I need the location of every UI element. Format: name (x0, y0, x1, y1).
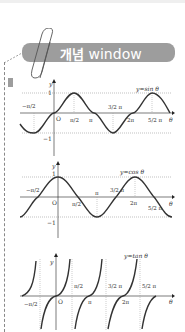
tick-neg1: −1 (43, 135, 52, 142)
header-title-ko: 개념 (60, 47, 84, 62)
tick-pi: π (88, 299, 92, 305)
origin-label: O (52, 199, 57, 206)
tick-2pi: 2π (127, 117, 134, 123)
tan-graph: y O −π/2 π/2 π 3/2 π 2π 5/2 π θ y=tan θ (0, 245, 185, 332)
tick-1: 1 (48, 89, 52, 96)
function-label: y=tan θ (123, 252, 148, 260)
tick-5pi-2: 5/2 π (148, 205, 163, 211)
axis-x-label: θ (169, 200, 173, 207)
tick-pi-2: π/2 (74, 283, 83, 289)
axis-x-label: θ (169, 298, 173, 305)
paperclip-icon (30, 28, 60, 83)
tick-2pi: 2π (122, 299, 129, 305)
tick-5pi-2: 5/2 π (148, 117, 163, 123)
tick-pi: π (89, 117, 93, 123)
header-title-en: window (89, 46, 142, 62)
tick-neg-pi-2: −π/2 (24, 301, 38, 307)
origin-label: O (56, 115, 61, 122)
tick-1: 1 (52, 170, 56, 177)
tick-pi-2: π/2 (72, 201, 81, 207)
tick-neg-pi-2: −π/2 (22, 103, 36, 109)
tick-2pi: 2π (130, 200, 137, 206)
tick-3pi-2: 3/2 π (110, 187, 125, 193)
function-label: y=sin θ (135, 85, 159, 93)
cos-graph: y 1 −1 O −π/2 π/2 π 3/2 π 2π 5/2 π θ y=c… (0, 160, 185, 240)
tick-neg1: −1 (47, 219, 56, 226)
top-strip (0, 0, 185, 3)
axis-y-label: y (49, 258, 54, 266)
tick-neg-pi-2: −π/2 (26, 187, 40, 193)
tick-pi-2: π/2 (70, 117, 79, 123)
tick-pi: π (95, 190, 99, 196)
tick-3pi-2: 3/2 π (108, 283, 123, 289)
dash-connector (4, 52, 24, 64)
axis-y-label: y (51, 162, 56, 170)
tick-5pi-2: 5/2 π (142, 283, 157, 289)
function-label: y=cos θ (119, 168, 144, 176)
sin-graph: y 1 −1 O −π/2 π/2 π 3/2 π 2π 5/2 π θ y=s… (0, 78, 185, 158)
origin-label: O (58, 298, 63, 305)
axis-x-label: θ (169, 116, 173, 123)
header-title: 개념 window (60, 44, 142, 63)
tick-3pi-2: 3/2 π (108, 104, 123, 110)
axis-y-label: y (48, 80, 53, 88)
